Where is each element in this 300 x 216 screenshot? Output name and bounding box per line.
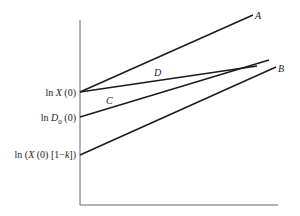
diagram: A B C D ln X (0) ln D0 (0) ln (X (0) [1−… <box>0 0 300 216</box>
y-label-lnX0: ln X (0) <box>45 87 76 99</box>
y-label-lnXk: ln (X (0) [1−k]) <box>15 149 76 161</box>
label-D: D <box>153 67 162 78</box>
y-label-lnD0: ln D0 (0) <box>41 112 76 126</box>
line-B <box>80 67 276 155</box>
line-A <box>80 15 253 92</box>
label-B: B <box>278 63 284 74</box>
label-C: C <box>106 95 113 106</box>
label-A: A <box>254 10 262 21</box>
